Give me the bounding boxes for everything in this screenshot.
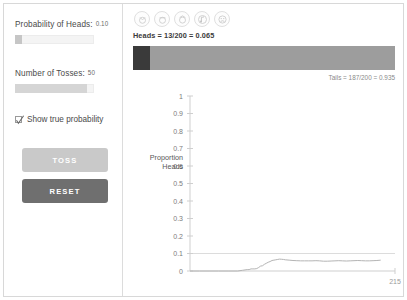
chart-canvas: 10.90.80.70.60.50.40.30.20.10215 [124, 88, 403, 293]
svg-text:0.4: 0.4 [173, 198, 183, 205]
show-true-probability-row[interactable]: Show true probability [15, 115, 103, 124]
number-of-tosses-label-text: Number of Tosses: [15, 69, 85, 78]
svg-text:0.9: 0.9 [173, 110, 183, 117]
probability-of-heads-slider[interactable] [15, 35, 94, 44]
slow-speed-icon[interactable] [134, 11, 150, 27]
sound-icon[interactable] [194, 11, 210, 27]
toolbar [134, 11, 230, 27]
svg-text:0.8: 0.8 [173, 128, 183, 135]
probability-of-heads-label-text: Probability of Heads: [15, 20, 93, 29]
svg-text:0.7: 0.7 [173, 145, 183, 152]
slider-fill [15, 84, 87, 93]
probability-of-heads-value: 0.10 [96, 20, 109, 27]
show-true-probability-checkbox[interactable] [15, 116, 22, 123]
heads-readout: Heads = 13/200 = 0.065 [133, 31, 214, 40]
visualization-panel: Heads = 13/200 = 0.065 Tails = 187/200 =… [124, 4, 403, 296]
svg-text:0.2: 0.2 [173, 233, 183, 240]
svg-text:0.3: 0.3 [173, 215, 183, 222]
probability-of-heads-label: Probability of Heads:0.10 [15, 20, 108, 29]
show-true-probability-label: Show true probability [27, 115, 103, 124]
medium-speed-icon[interactable] [154, 11, 170, 27]
toss-button[interactable]: TOSS [22, 148, 108, 172]
proportion-bar [133, 46, 395, 70]
reset-button[interactable]: RESET [22, 179, 108, 203]
heads-segment [133, 46, 150, 70]
y-axis-label: ProportionHeads [125, 153, 183, 171]
svg-text:0: 0 [179, 268, 183, 275]
coin-toss-simulation-app: Probability of Heads:0.10 Number of Toss… [0, 0, 407, 300]
svg-text:1: 1 [179, 93, 183, 100]
svg-text:215: 215 [389, 278, 401, 285]
number-of-tosses-label: Number of Tosses:50 [15, 69, 95, 78]
control-panel: Probability of Heads:0.10 Number of Toss… [4, 4, 123, 296]
svg-text:0.1: 0.1 [173, 250, 183, 257]
settings-icon[interactable] [214, 11, 230, 27]
svg-text:0.5: 0.5 [173, 180, 183, 187]
proportion-heads-chart: ProportionHeads 10.90.80.70.60.50.40.30.… [124, 88, 403, 293]
tails-readout: Tails = 187/200 = 0.935 [329, 74, 395, 81]
number-of-tosses-slider[interactable] [15, 84, 94, 93]
slider-track [15, 35, 94, 44]
number-of-tosses-value: 50 [88, 69, 95, 76]
fast-speed-icon[interactable] [174, 11, 190, 27]
slider-thumb[interactable] [15, 35, 22, 44]
